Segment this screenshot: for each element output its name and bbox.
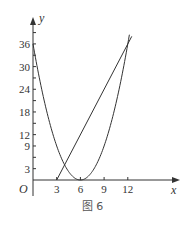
y-axis-arrow-icon xyxy=(30,17,36,25)
x-axis-label: x xyxy=(170,183,177,197)
y-tick-label: 3 xyxy=(25,163,31,175)
x-tick-label: 6 xyxy=(78,183,84,195)
x-tick-label: 9 xyxy=(101,183,107,195)
figure-caption: 图 6 xyxy=(0,197,185,213)
x-tick-label: 3 xyxy=(54,183,60,195)
line-curve xyxy=(57,36,132,180)
origin-label: O xyxy=(19,182,28,196)
parabola-curve xyxy=(33,35,129,180)
y-tick-label: 12 xyxy=(19,129,30,141)
x-tick-label: 12 xyxy=(122,183,133,195)
y-tick-labels: 391218243036 xyxy=(19,38,31,175)
y-tick-label: 30 xyxy=(19,61,31,73)
y-tick-label: 24 xyxy=(19,83,31,95)
y-axis-label: y xyxy=(38,11,45,25)
y-tick-label: 9 xyxy=(25,140,31,152)
function-graph: 391218243036 36912 y x O xyxy=(0,0,185,226)
y-tick-label: 18 xyxy=(19,106,31,118)
y-tick-label: 36 xyxy=(19,38,31,50)
x-tick-labels: 36912 xyxy=(54,183,133,195)
